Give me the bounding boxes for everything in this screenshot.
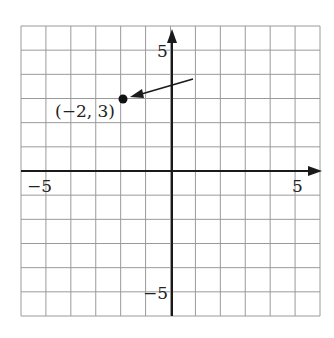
y-tick-label-5: 5 <box>157 41 168 61</box>
arrowhead-icon <box>130 89 144 98</box>
point-label: (−2, 3) <box>55 101 115 121</box>
x-tick-label-5: 5 <box>292 176 303 196</box>
y-tick-label-neg5: −5 <box>143 283 168 303</box>
y-axis-arrow-icon <box>167 29 177 43</box>
y-axis <box>167 29 177 316</box>
data-point <box>119 95 128 104</box>
x-tick-label-neg5: −5 <box>27 176 52 196</box>
coordinate-plane: −5 5 5 −5 (−2, 3) <box>0 0 334 338</box>
point-annotation-arrow <box>130 79 193 98</box>
